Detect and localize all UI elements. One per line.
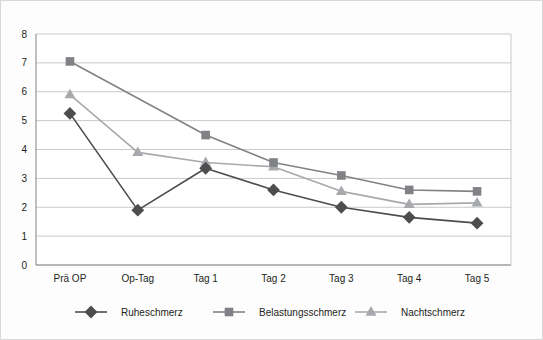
line-chart: 012345678Prä OPOp-TagTag 1Tag 2Tag 3Tag … xyxy=(1,1,543,340)
series-marker-square xyxy=(337,171,346,180)
x-tick-label: Prä OP xyxy=(54,273,87,284)
x-axis-ticks: Prä OPOp-TagTag 1Tag 2Tag 3Tag 4Tag 5 xyxy=(54,273,490,284)
series-marker-diamond xyxy=(85,306,98,319)
series-marker-square xyxy=(269,158,278,167)
legend-label: Belastungsschmerz xyxy=(259,307,346,318)
y-tick-label: 3 xyxy=(21,173,27,184)
legend-item-nachtschmerz: Nachtschmerz xyxy=(355,306,465,318)
series-marker-square xyxy=(201,131,210,140)
y-tick-label: 4 xyxy=(21,144,27,155)
legend-item-ruheschmerz: Ruheschmerz xyxy=(75,306,183,319)
series-marker-square xyxy=(225,308,234,317)
legend: RuheschmerzBelastungsschmerzNachtschmerz xyxy=(75,306,465,319)
x-tick-label: Op-Tag xyxy=(121,273,154,284)
series-marker-triangle xyxy=(366,306,377,316)
series-marker-square xyxy=(473,187,482,196)
series-marker-square xyxy=(405,186,414,195)
series-marker-square xyxy=(66,57,75,66)
legend-item-belastungsschmerz: Belastungsschmerz xyxy=(213,307,346,318)
x-tick-label: Tag 5 xyxy=(465,273,490,284)
legend-label: Ruheschmerz xyxy=(121,307,183,318)
y-axis-ticks: 012345678 xyxy=(21,29,27,271)
legend-label: Nachtschmerz xyxy=(401,307,465,318)
x-tick-label: Tag 3 xyxy=(329,273,354,284)
y-tick-label: 6 xyxy=(21,86,27,97)
y-tick-label: 0 xyxy=(21,260,27,271)
y-tick-label: 1 xyxy=(21,231,27,242)
y-tick-label: 8 xyxy=(21,29,27,40)
x-tick-label: Tag 2 xyxy=(261,273,286,284)
y-tick-label: 7 xyxy=(21,57,27,68)
x-tick-label: Tag 4 xyxy=(397,273,422,284)
x-tick-label: Tag 1 xyxy=(193,273,218,284)
chart-frame: 012345678Prä OPOp-TagTag 1Tag 2Tag 3Tag … xyxy=(0,0,543,340)
y-tick-label: 5 xyxy=(21,115,27,126)
y-tick-label: 2 xyxy=(21,202,27,213)
